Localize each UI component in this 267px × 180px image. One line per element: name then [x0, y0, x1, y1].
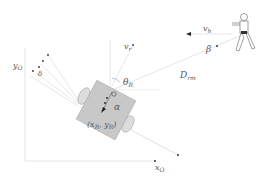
distance-label: Drm	[179, 70, 196, 81]
delta-label: δ	[38, 70, 42, 78]
beta-label: β	[205, 44, 211, 54]
human-velocity-arrow	[186, 32, 191, 36]
human-velocity-label: vh	[203, 24, 212, 34]
y-axis-label: yO	[12, 61, 23, 71]
alpha-label: α	[114, 102, 120, 112]
x-axis-label: xO	[155, 163, 165, 173]
human-figure	[232, 14, 255, 52]
robot-velocity-label: vr	[124, 42, 133, 52]
sensor-rays	[30, 55, 78, 106]
robot-human-diagram: yO xO δ vr θR α (xR, yR) vh β Drm	[0, 0, 267, 180]
theta-label: θR	[123, 77, 133, 88]
